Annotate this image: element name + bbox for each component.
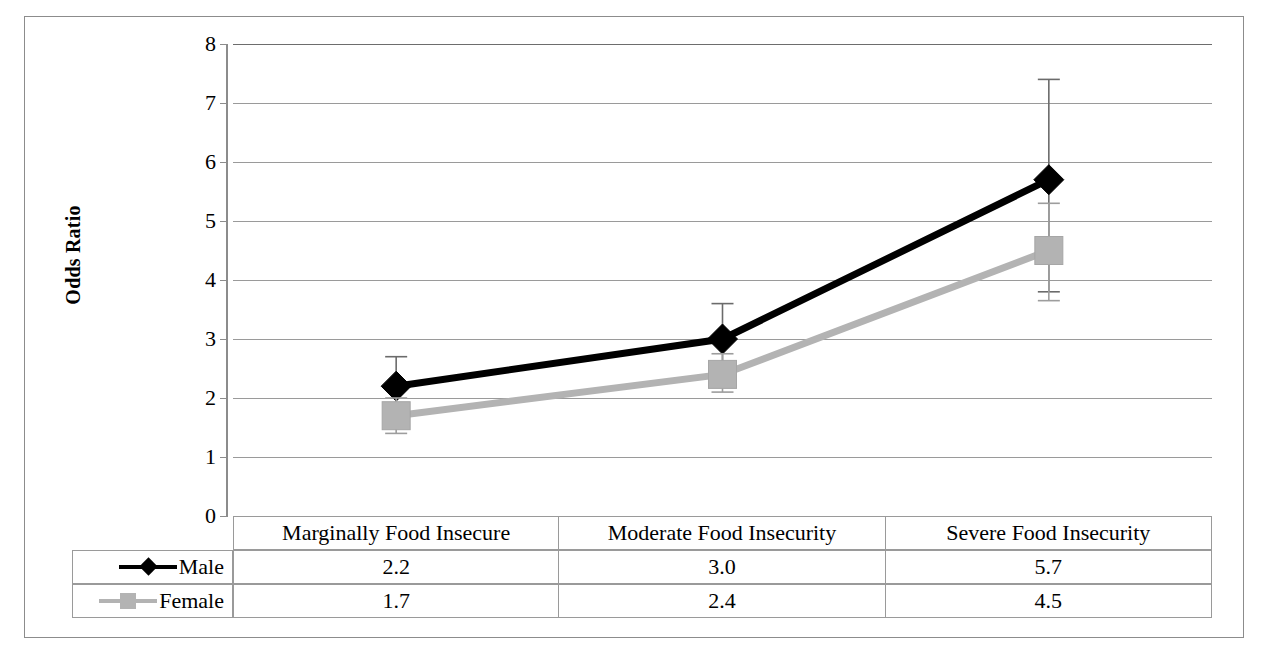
legend-marker-square-icon <box>120 593 136 609</box>
table-cell-female-1: 2.4 <box>559 584 885 618</box>
table-cell-male-0: 2.2 <box>233 550 559 584</box>
table-cell-male-1: 3.0 <box>559 550 885 584</box>
y-tick-label-6: 6 <box>176 151 216 173</box>
marker-square-female-2 <box>1035 237 1063 265</box>
legend-label-female: Female <box>157 588 228 614</box>
table-row: Male2.23.05.7 <box>72 550 1212 584</box>
legend-label-male: Male <box>177 554 228 580</box>
y-tick-label-2: 2 <box>176 387 216 409</box>
plot-area <box>233 44 1212 516</box>
marker-square-female-0 <box>382 402 410 430</box>
y-tick-label-4: 4 <box>176 269 216 291</box>
table-corner-cell <box>72 516 233 550</box>
series-plot <box>233 44 1212 516</box>
table-header-cell-2: Severe Food Insecurity <box>886 516 1212 550</box>
legend-marker-diamond-icon <box>139 557 157 575</box>
data-table: Marginally Food InsecureModerate Food In… <box>72 516 1212 618</box>
y-tick-label-8: 8 <box>176 33 216 55</box>
table-header-cell-0: Marginally Food Insecure <box>233 516 559 550</box>
legend-item-female[interactable]: Female <box>72 584 233 618</box>
y-axis-tick-1 <box>220 457 228 458</box>
y-axis-tick-4 <box>220 280 228 281</box>
table-row: Female1.72.44.5 <box>72 584 1212 618</box>
y-axis-tick-5 <box>220 221 228 222</box>
y-axis-tick-8 <box>220 44 228 45</box>
marker-diamond-male-2 <box>1034 165 1064 195</box>
y-axis-title: Odds Ratio <box>62 175 102 335</box>
marker-diamond-male-1 <box>708 324 738 354</box>
legend-swatch-diamond-icon <box>119 557 177 577</box>
table-header-cell-1: Moderate Food Insecurity <box>559 516 885 550</box>
y-tick-label-3: 3 <box>176 328 216 350</box>
legend-item-male[interactable]: Male <box>72 550 233 584</box>
odds-ratio-chart: Odds Ratio 876543210 Marginally Food Ins… <box>0 0 1268 662</box>
table-header-row: Marginally Food InsecureModerate Food In… <box>72 516 1212 550</box>
y-axis-tick-3 <box>220 339 228 340</box>
y-axis-tick-2 <box>220 398 228 399</box>
y-axis-tick-7 <box>220 103 228 104</box>
y-axis-tick-labels: 876543210 <box>176 44 216 516</box>
legend-swatch-square-icon <box>99 591 157 611</box>
table-cell-female-0: 1.7 <box>233 584 559 618</box>
y-axis-tick-6 <box>220 162 228 163</box>
table-cell-female-2: 4.5 <box>886 584 1212 618</box>
marker-square-female-1 <box>709 360 737 388</box>
marker-diamond-male-0 <box>381 371 411 401</box>
table-cell-male-2: 5.7 <box>886 550 1212 584</box>
y-tick-label-1: 1 <box>176 446 216 468</box>
y-tick-label-7: 7 <box>176 92 216 114</box>
y-tick-label-5: 5 <box>176 210 216 232</box>
